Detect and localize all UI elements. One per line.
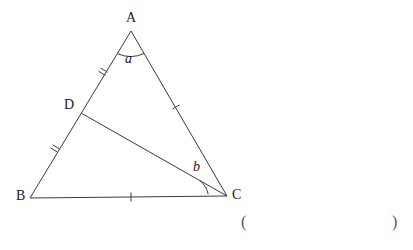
vertex-label-d: D [64,98,74,112]
tick-mark-ad-double [99,68,108,75]
answer-paren-close: ) [392,214,397,230]
angle-label-b: b [193,160,200,174]
segment-ac [131,31,227,196]
segment-dc [81,113,227,196]
segment-ab [30,31,131,198]
vertex-label-c: C [232,188,241,202]
vertex-label-a: A [126,11,136,25]
vertex-label-b: B [16,189,25,203]
segment-bc [30,196,227,198]
triangle-diagram-canvas [0,0,413,250]
angle-label-a: a [125,52,132,66]
geometry-figure: A B C D a b ( ) [0,0,413,250]
answer-paren-open: ( [241,214,246,230]
